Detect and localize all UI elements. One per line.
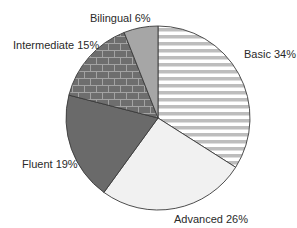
label-fluent: Fluent 19%: [22, 158, 78, 170]
label-bilingual: Bilingual 6%: [90, 12, 151, 24]
label-basic: Basic 34%: [244, 48, 296, 60]
label-advanced: Advanced 26%: [174, 213, 248, 225]
pie-chart: Basic 34% Advanced 26% Fluent 19% Interm…: [0, 0, 297, 228]
pie-slices: [66, 26, 250, 210]
label-intermediate: Intermediate 15%: [13, 39, 99, 51]
